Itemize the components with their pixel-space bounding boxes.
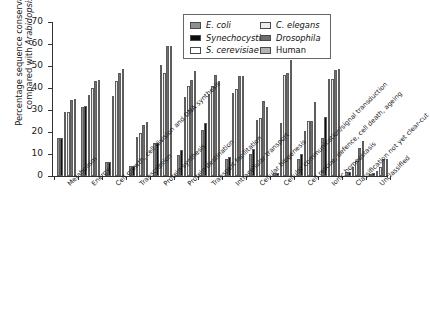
legend-label: Synechocystis	[206, 33, 265, 43]
legend-item: Human	[260, 44, 321, 57]
legend-swatch	[190, 22, 201, 29]
y-tick-label: 30	[32, 104, 43, 114]
legend-item: E. coli	[190, 19, 265, 32]
legend-label: C. elegans	[276, 20, 320, 30]
y-tick-label: 70	[32, 16, 43, 26]
y-tick-label: 60	[32, 38, 43, 48]
legend-item: Synechocystis	[190, 32, 265, 45]
bar	[266, 107, 269, 176]
y-tick-30: 30	[0, 110, 52, 111]
legend-column-left: E. coliSynechocystisS. cerevisiae	[190, 19, 265, 57]
legend-swatch	[260, 35, 271, 42]
legend-swatch	[260, 47, 271, 54]
bar	[74, 99, 77, 176]
legend-swatch	[260, 22, 271, 29]
y-tick-20: 20	[0, 132, 52, 133]
legend: E. coliSynechocystisS. cerevisiae C. ele…	[183, 14, 331, 59]
legend-swatch	[190, 47, 201, 54]
legend-item: C. elegans	[260, 19, 321, 32]
bar-group	[81, 22, 101, 176]
y-tick-50: 50	[0, 66, 52, 67]
bar-group	[105, 22, 125, 176]
legend-item: S. cerevisiae	[190, 44, 265, 57]
y-axis-title-line2-prefix: compared with	[24, 45, 34, 110]
bar-group	[57, 22, 77, 176]
y-tick-label: 0	[37, 170, 43, 180]
bar	[314, 102, 317, 176]
y-tick-label: 20	[32, 126, 43, 136]
y-tick-0: 0	[0, 176, 52, 177]
bar	[98, 80, 101, 176]
y-tick-label: 40	[32, 82, 43, 92]
bar	[122, 69, 125, 176]
legend-item: Drosophila	[260, 32, 321, 45]
legend-column-right: C. elegansDrosophilaHuman	[260, 19, 321, 57]
legend-label: Drosophila	[276, 33, 321, 43]
x-tick	[54, 176, 55, 180]
legend-label: S. cerevisiae	[206, 45, 259, 55]
legend-label: Human	[276, 45, 306, 55]
y-tick-40: 40	[0, 88, 52, 89]
y-tick-10: 10	[0, 154, 52, 155]
y-tick-label: 10	[32, 148, 43, 158]
y-tick-label: 50	[32, 60, 43, 70]
bar	[218, 81, 221, 176]
legend-label: E. coli	[206, 20, 231, 30]
legend-swatch	[190, 35, 201, 42]
y-tick-70: 70	[0, 22, 52, 23]
y-axis-title-line1: Percentage sequence conservation	[14, 0, 24, 126]
y-tick-60: 60	[0, 44, 52, 45]
bar-group	[153, 22, 173, 176]
